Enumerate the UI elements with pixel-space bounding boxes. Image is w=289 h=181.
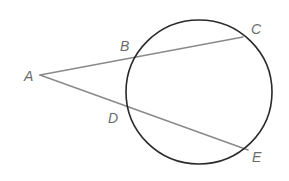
secant-diagram bbox=[0, 0, 289, 181]
point-label-a: A bbox=[24, 69, 33, 83]
secant-line-ac bbox=[40, 37, 243, 75]
circle bbox=[126, 20, 272, 164]
point-label-d: D bbox=[108, 111, 118, 125]
point-label-e: E bbox=[252, 150, 261, 164]
point-label-c: C bbox=[251, 22, 261, 36]
point-label-b: B bbox=[120, 39, 129, 53]
